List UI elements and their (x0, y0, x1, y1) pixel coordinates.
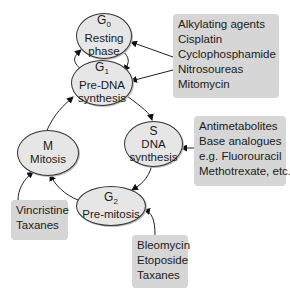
drug-item: Taxanes (16, 218, 63, 233)
arrow-g1-to-s (127, 96, 152, 120)
phase-g2-label-1: Pre-mitosis (82, 208, 140, 221)
phase-s-label-2: synthesis (130, 151, 178, 164)
drugbox-bleomycin: Bleomycin Etoposide Taxanes (132, 235, 188, 288)
drugbox-alkylating: Alkylating agents Cisplatin Cyclophospha… (173, 14, 279, 98)
phase-g2-symbol: G2 (104, 191, 118, 208)
phase-g0: G0 Resting phase (76, 13, 132, 59)
drugbox-vincristine: Vincristine Taxanes (11, 200, 68, 240)
drug-item: Base analogues (199, 134, 281, 149)
phase-g0-label-1: Resting (85, 32, 124, 45)
drug-item: Mitomycin (178, 77, 274, 92)
phase-s-label-1: DNA (141, 138, 165, 151)
drug-item: Nitrosoureas (178, 62, 274, 77)
arrow-vincristine-to-m (18, 172, 33, 200)
phase-s-symbol: S (149, 125, 157, 138)
drugbox-antimetabolites: Antimetabolites Base analogues e.g. Fluo… (194, 116, 286, 186)
arrow-alkylating-to-g1 (131, 70, 173, 81)
phase-s: S DNA synthesis (124, 121, 183, 167)
arrow-m-to-g1 (47, 97, 73, 130)
phase-g1-label-2: synthesis (78, 92, 126, 105)
phase-g0-label-2: phase (88, 45, 119, 58)
arrow-g2-to-m (50, 175, 78, 200)
phase-g1-symbol: G1 (95, 61, 109, 78)
drug-item: Alkylating agents (178, 17, 274, 32)
drug-item: Antimetabolites (199, 119, 281, 134)
phase-g1-label-1: Pre-DNA (79, 79, 125, 92)
drug-item: Etoposide (137, 253, 183, 268)
phase-m-symbol: M (43, 140, 53, 153)
drug-item: Bleomycin (137, 238, 183, 253)
drug-item: e.g. Fluorouracil (199, 149, 281, 164)
phase-m: M Mitosis (17, 130, 79, 176)
drug-item: Cyclophosphamide (178, 47, 274, 62)
phase-g2: G2 Pre-mitosis (76, 186, 146, 226)
arrow-bleomycin-to-g2 (144, 210, 155, 235)
drug-item: Methotrexate, etc. (199, 164, 281, 179)
phase-g0-symbol: G0 (97, 14, 111, 31)
arrow-s-to-g2 (132, 165, 152, 190)
drug-item: Cisplatin (178, 32, 274, 47)
arrow-alkylating-to-g0 (131, 42, 173, 57)
drug-item: Taxanes (137, 268, 183, 283)
phase-m-label-1: Mitosis (30, 153, 66, 166)
phase-g1: G1 Pre-DNA synthesis (71, 60, 133, 106)
drug-item: Vincristine (16, 203, 63, 218)
